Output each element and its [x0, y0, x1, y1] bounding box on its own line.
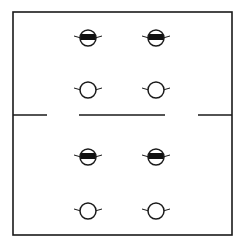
open-fixture-icon	[142, 203, 170, 219]
banded-fixture-icon	[142, 30, 170, 46]
banded-fixture-icon	[74, 30, 102, 46]
open-fixture-icon	[74, 82, 102, 98]
open-fixture-icon	[74, 203, 102, 219]
banded-fixture-icon	[74, 149, 102, 165]
lower-room	[74, 149, 170, 219]
outer-wall	[13, 12, 232, 235]
open-fixture-icon	[142, 82, 170, 98]
floor-plan-diagram	[0, 0, 242, 246]
banded-fixture-icon	[142, 149, 170, 165]
outer-wall-rect	[13, 12, 232, 235]
upper-room	[74, 30, 170, 98]
fixtures	[74, 30, 170, 219]
